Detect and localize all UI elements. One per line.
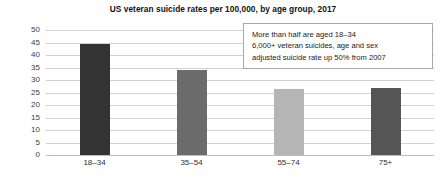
annotation-line: adjusted suicide rate up 50% from 2007	[252, 52, 425, 63]
bar-series-3[interactable]	[371, 88, 401, 156]
y-tick-label: 25	[0, 89, 40, 97]
annotation-line: 6,000+ veteran suicides, age and sex	[252, 40, 425, 51]
y-tick-label: 35	[0, 64, 40, 72]
bar-series-0[interactable]	[80, 44, 110, 155]
y-tick-label: 40	[0, 51, 40, 59]
x-tick-label: 35–54	[143, 158, 240, 167]
y-tick-label: 30	[0, 76, 40, 84]
y-tick-label: 15	[0, 114, 40, 122]
bar-series-2[interactable]	[274, 89, 304, 155]
x-axis: 18–34 35–54 55–74 75+	[46, 158, 434, 174]
y-axis: 50 45 40 35 30 25 20 15 10 5 0	[0, 30, 40, 155]
y-tick-label: 5	[0, 139, 40, 147]
x-tick-label: 75+	[337, 158, 434, 167]
annotation-callout: More than half are aged 18–34 6,000+ vet…	[243, 23, 433, 69]
y-tick-label: 0	[0, 151, 40, 159]
x-tick-label: 18–34	[46, 158, 143, 167]
x-tick-label: 55–74	[240, 158, 337, 167]
y-tick-label: 45	[0, 39, 40, 47]
y-tick-label: 20	[0, 101, 40, 109]
annotation-line: More than half are aged 18–34	[252, 29, 425, 40]
bar-series-1[interactable]	[177, 70, 207, 155]
y-tick-label: 50	[0, 26, 40, 34]
y-tick-label: 10	[0, 126, 40, 134]
bar-chart: US veteran suicide rates per 100,000, by…	[0, 0, 446, 183]
chart-title: US veteran suicide rates per 100,000, by…	[0, 4, 446, 14]
axis-baseline	[46, 155, 434, 156]
